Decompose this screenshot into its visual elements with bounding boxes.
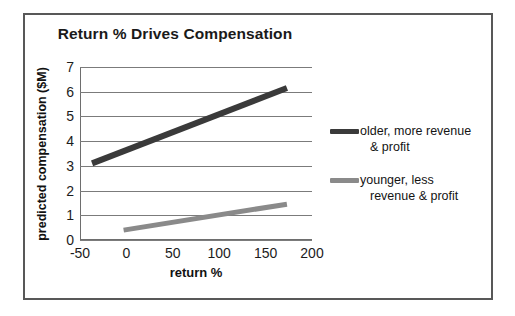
plot-area: 01234567 -50050100150200: [80, 67, 312, 240]
y-tick-label: 5: [66, 108, 74, 124]
legend-color-swatch: [330, 129, 359, 134]
legend-entry[interactable]: older, more revenue& profit: [330, 123, 490, 155]
x-tick-label: 50: [165, 245, 181, 261]
y-axis-title: predicted compensation ($M): [33, 67, 51, 240]
series-line: [92, 88, 287, 163]
legend-entry[interactable]: younger, lessrevenue & profit: [330, 172, 490, 204]
x-tick-label: 0: [122, 245, 130, 261]
series-lines: [80, 67, 312, 240]
x-tick-label: -50: [70, 245, 90, 261]
chart-title: Return % Drives Compensation: [25, 25, 325, 43]
y-tick-label: 2: [66, 183, 74, 199]
x-tick-label: 100: [208, 245, 231, 261]
y-axis-title-text: predicted compensation ($M): [35, 67, 49, 241]
chart-canvas: Return % Drives Compensation predicted c…: [25, 15, 491, 298]
x-axis-title: return %: [80, 265, 312, 280]
legend-label-line2: revenue & profit: [370, 189, 458, 203]
y-tick-label: 6: [66, 84, 74, 100]
chart-legend: older, more revenue& profityounger, less…: [330, 123, 490, 221]
gridline: [80, 240, 312, 241]
x-tick-label: 150: [254, 245, 277, 261]
legend-color-swatch: [330, 178, 359, 183]
legend-label-line2: & profit: [370, 140, 410, 154]
x-tick-label: 200: [300, 245, 323, 261]
legend-label: older, more revenue& profit: [360, 123, 471, 155]
chart-frame: Return % Drives Compensation predicted c…: [23, 13, 493, 300]
y-tick-label: 7: [66, 59, 74, 75]
series-line: [124, 204, 287, 230]
legend-label: younger, lessrevenue & profit: [360, 172, 458, 204]
y-tick-label: 3: [66, 158, 74, 174]
y-tick-label: 1: [66, 207, 74, 223]
y-tick-label: 4: [66, 133, 74, 149]
